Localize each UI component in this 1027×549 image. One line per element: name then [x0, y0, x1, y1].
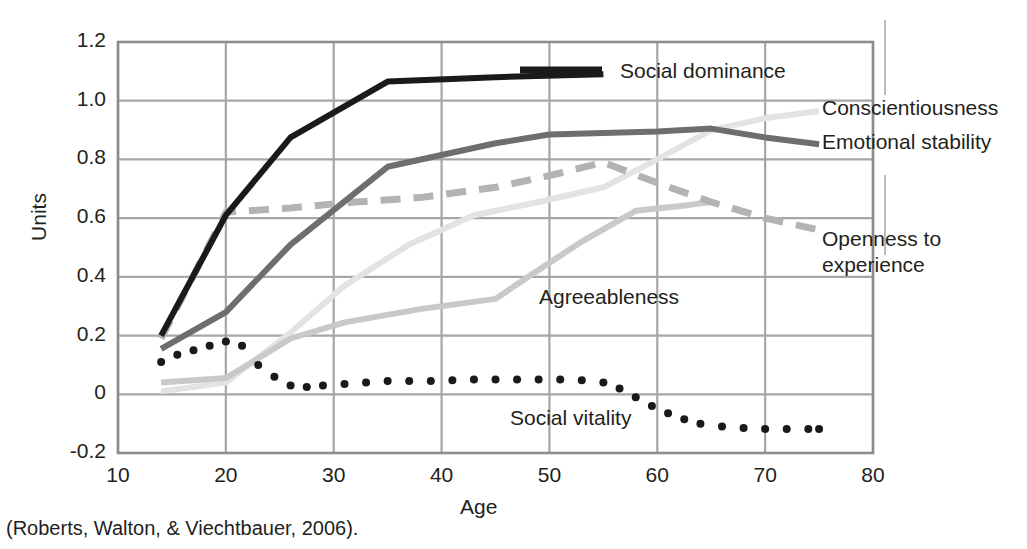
y-axis-title: Units	[27, 172, 51, 262]
plot-frame	[118, 42, 873, 453]
x-tick-50: 50	[519, 463, 579, 487]
series-label-social-vitality: Social vitality	[510, 405, 631, 431]
y-tick-0_8: 0.8	[36, 145, 106, 169]
x-tick-20: 20	[196, 463, 256, 487]
y-tick-1_2: 1.2	[36, 28, 106, 52]
series-label-social-dominance: Social dominance	[620, 58, 786, 84]
series-label-conscientiousness: Conscientiousness	[822, 95, 998, 121]
figure-caption: (Roberts, Walton, & Viechtbauer, 2006).	[6, 517, 358, 540]
series-label-emotional-stability: Emotional stability	[822, 129, 991, 155]
x-axis-title: Age	[460, 495, 497, 519]
y-tick-0_2: 0.2	[36, 322, 106, 346]
x-tick-70: 70	[735, 463, 795, 487]
y-tick-neg0_2: -0.2	[36, 439, 106, 463]
data-series-group	[157, 74, 823, 433]
series-openness-to-experience	[161, 162, 819, 338]
x-tick-40: 40	[412, 463, 472, 487]
series-label-agreeableness: Agreeableness	[539, 284, 679, 310]
series-social-vitality	[157, 337, 823, 432]
x-tick-30: 30	[304, 463, 364, 487]
x-tick-80: 80	[843, 463, 903, 487]
y-tick-1_0: 1.0	[36, 87, 106, 111]
grid-lines	[118, 42, 873, 453]
y-tick-0_4: 0.4	[36, 263, 106, 287]
y-tick-0: 0	[36, 380, 106, 404]
series-label-openness-to-experience: Openness to experience	[822, 226, 941, 278]
series-conscientiousness	[161, 111, 819, 391]
x-tick-10: 10	[88, 463, 148, 487]
figure-container: 1.21.00.80.60.40.20-0.2 1020304050607080…	[0, 0, 1027, 549]
x-tick-60: 60	[627, 463, 687, 487]
series-emotional-stability	[161, 129, 819, 349]
